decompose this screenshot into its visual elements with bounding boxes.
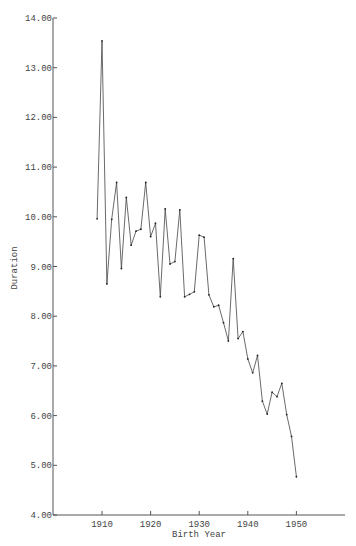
- data-point: [169, 263, 171, 265]
- y-tick-label: 14.00: [25, 14, 52, 24]
- x-tick-label: 1910: [91, 520, 113, 530]
- data-point: [130, 244, 132, 246]
- data-point: [291, 436, 293, 438]
- data-point: [276, 396, 278, 398]
- data-point: [252, 372, 254, 374]
- y-tick-label: 7.00: [30, 362, 52, 372]
- data-point: [296, 476, 298, 478]
- data-point: [159, 296, 161, 298]
- data-point: [281, 382, 283, 384]
- data-point: [125, 197, 127, 199]
- y-tick-label: 12.00: [25, 113, 52, 123]
- data-point: [261, 400, 263, 402]
- data-point: [150, 236, 152, 238]
- line-chart: 4.005.006.007.008.009.0010.0011.0012.001…: [0, 0, 356, 546]
- data-point: [189, 293, 191, 295]
- data-point: [179, 209, 181, 211]
- data-point: [135, 230, 137, 232]
- x-tick-label: 1920: [140, 520, 162, 530]
- y-tick-label: 8.00: [30, 312, 52, 322]
- data-point: [242, 331, 244, 333]
- y-axis: 4.005.006.007.008.009.0010.0011.0012.001…: [25, 14, 57, 521]
- data-point: [237, 338, 239, 340]
- y-tick-label: 11.00: [25, 163, 52, 173]
- data-point: [116, 182, 118, 184]
- data-point: [101, 40, 103, 42]
- data-point: [271, 391, 273, 393]
- y-tick-label: 13.00: [25, 64, 52, 74]
- data-point: [145, 182, 147, 184]
- data-series: [96, 40, 297, 478]
- y-tick-label: 4.00: [30, 511, 52, 521]
- y-axis-label: Duration: [10, 246, 20, 289]
- data-point: [213, 306, 215, 308]
- x-tick-label: 1930: [188, 520, 210, 530]
- data-point: [111, 218, 113, 220]
- x-axis: 19101920193019401950: [53, 511, 345, 530]
- data-point: [193, 291, 195, 293]
- data-point: [227, 340, 229, 342]
- data-point: [155, 222, 157, 224]
- data-point: [286, 414, 288, 416]
- data-point: [184, 296, 186, 298]
- x-tick-label: 1940: [237, 520, 259, 530]
- x-tick-label: 1950: [286, 520, 308, 530]
- data-point: [266, 413, 268, 415]
- data-point: [208, 294, 210, 296]
- data-point: [218, 304, 220, 306]
- data-point: [203, 236, 205, 238]
- y-tick-label: 10.00: [25, 213, 52, 223]
- data-point: [257, 355, 259, 357]
- y-tick-label: 9.00: [30, 263, 52, 273]
- data-point: [164, 208, 166, 210]
- data-point: [232, 258, 234, 260]
- data-point: [247, 358, 249, 360]
- data-point: [121, 268, 123, 270]
- data-point: [96, 218, 98, 220]
- x-axis-label: Birth Year: [172, 530, 226, 540]
- data-point: [106, 283, 108, 285]
- y-tick-label: 5.00: [30, 461, 52, 471]
- data-point: [198, 234, 200, 236]
- y-tick-label: 6.00: [30, 412, 52, 422]
- series-line: [97, 41, 296, 477]
- data-point: [223, 322, 225, 324]
- data-point: [174, 261, 176, 263]
- data-point: [140, 228, 142, 230]
